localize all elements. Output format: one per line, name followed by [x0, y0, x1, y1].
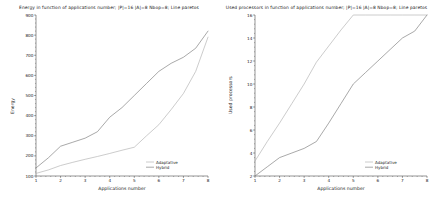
- svg-text:12: 12: [247, 59, 253, 64]
- svg-text:500: 500: [25, 93, 33, 98]
- x-axis-ticks: 12345678: [35, 176, 210, 183]
- svg-text:700: 700: [25, 53, 33, 58]
- legend: AdaptativeHybrid: [146, 160, 178, 170]
- svg-text:7: 7: [401, 178, 404, 183]
- legend-label-hybrid: Hybrid: [156, 165, 170, 170]
- svg-text:400: 400: [25, 113, 33, 118]
- svg-text:300: 300: [25, 133, 33, 138]
- svg-text:14: 14: [247, 36, 253, 41]
- svg-text:3: 3: [303, 178, 306, 183]
- legend: AdaptativeHybrid: [365, 160, 397, 170]
- svg-text:7: 7: [182, 178, 185, 183]
- svg-text:6: 6: [377, 178, 380, 183]
- svg-text:10: 10: [247, 82, 253, 87]
- svg-text:1: 1: [254, 178, 257, 183]
- y-axis-ticks: 100200300400500600700800900: [25, 13, 36, 179]
- series-line-hybrid: [36, 31, 208, 168]
- svg-text:16: 16: [247, 13, 253, 18]
- svg-text:2: 2: [59, 178, 62, 183]
- series-line-hybrid: [255, 15, 427, 176]
- legend-label-hybrid: Hybrid: [375, 165, 389, 170]
- x-axis-ticks: 12345678: [254, 176, 429, 183]
- right-plot-canvas: 24681012141612345678AdaptativeHybrid: [218, 0, 435, 204]
- series-line-adaptative: [255, 15, 427, 161]
- used-processors-chart-figure: Used processors in function of applicati…: [218, 0, 435, 204]
- y-axis-ticks: 246810121416: [247, 13, 255, 179]
- svg-text:4: 4: [108, 178, 111, 183]
- svg-text:900: 900: [25, 13, 33, 18]
- svg-text:1: 1: [35, 178, 38, 183]
- svg-text:6: 6: [158, 178, 161, 183]
- svg-text:800: 800: [25, 33, 33, 38]
- figure-pair-container: Energy in function of applications numbe…: [0, 0, 435, 204]
- svg-text:2: 2: [250, 174, 253, 179]
- svg-text:5: 5: [352, 178, 355, 183]
- svg-text:200: 200: [25, 153, 33, 158]
- energy-chart-figure: Energy in function of applications numbe…: [0, 0, 218, 204]
- left-plot-canvas: 10020030040050060070080090012345678Adapt…: [0, 0, 218, 204]
- svg-text:5: 5: [133, 178, 136, 183]
- svg-text:100: 100: [25, 174, 33, 179]
- svg-text:4: 4: [327, 178, 330, 183]
- svg-text:8: 8: [207, 178, 210, 183]
- svg-text:8: 8: [426, 178, 429, 183]
- svg-text:4: 4: [250, 151, 253, 156]
- svg-text:2: 2: [278, 178, 281, 183]
- svg-text:600: 600: [25, 73, 33, 78]
- svg-text:8: 8: [250, 105, 253, 110]
- svg-text:6: 6: [250, 128, 253, 133]
- svg-text:3: 3: [84, 178, 87, 183]
